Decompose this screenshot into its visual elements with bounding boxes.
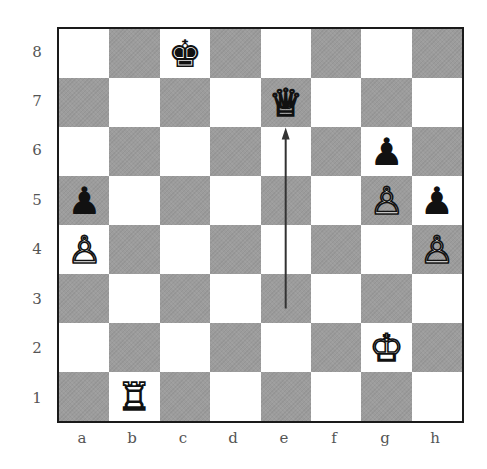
square-c6 <box>160 127 210 176</box>
square-d4 <box>210 225 260 274</box>
black-pawn-icon: ♟ <box>67 182 101 220</box>
square-g1 <box>361 372 411 421</box>
square-e6 <box>261 127 311 176</box>
black-pawn-icon: ♟ <box>369 133 403 171</box>
black-king-icon: ♚ <box>168 35 202 73</box>
square-a8 <box>59 29 109 78</box>
black-pawn-icon: ♟ <box>420 182 454 220</box>
square-a6 <box>59 127 109 176</box>
square-d3 <box>210 274 260 323</box>
file-label-f: f <box>309 429 359 447</box>
square-e5 <box>261 176 311 225</box>
square-g2: ♔ <box>361 323 411 372</box>
white-pawn-icon: ♙ <box>67 231 101 269</box>
square-c1 <box>160 372 210 421</box>
square-b5 <box>109 176 159 225</box>
white-rook-icon: ♖ <box>118 378 152 416</box>
square-g7 <box>361 78 411 127</box>
square-h5: ♟ <box>412 176 462 225</box>
white-pawn-icon: ♙ <box>369 182 403 220</box>
rank-label-5: 5 <box>30 191 44 209</box>
square-d8 <box>210 29 260 78</box>
square-h4: ♙ <box>412 225 462 274</box>
white-king-icon: ♔ <box>369 329 403 367</box>
rank-label-4: 4 <box>30 240 44 258</box>
rank-label-3: 3 <box>30 290 44 308</box>
square-h3 <box>412 274 462 323</box>
rank-label-8: 8 <box>30 43 44 61</box>
square-h7 <box>412 78 462 127</box>
square-e2 <box>261 323 311 372</box>
square-g5: ♙ <box>361 176 411 225</box>
square-e4 <box>261 225 311 274</box>
rank-label-6: 6 <box>30 141 44 159</box>
rank-label-2: 2 <box>30 339 44 357</box>
square-b6 <box>109 127 159 176</box>
file-label-b: b <box>107 429 157 447</box>
file-label-h: h <box>410 429 460 447</box>
chess-board: ♚♕♟♟♙♟♙♙♔♖ <box>57 27 464 423</box>
square-d1 <box>210 372 260 421</box>
square-e3 <box>261 274 311 323</box>
file-label-a: a <box>57 429 107 447</box>
white-pawn-icon: ♙ <box>420 231 454 269</box>
square-c5 <box>160 176 210 225</box>
square-a4: ♙ <box>59 225 109 274</box>
square-b8 <box>109 29 159 78</box>
file-label-d: d <box>208 429 258 447</box>
rank-label-7: 7 <box>30 92 44 110</box>
square-g4 <box>361 225 411 274</box>
square-f7 <box>311 78 361 127</box>
rank-label-1: 1 <box>30 389 44 407</box>
square-e1 <box>261 372 311 421</box>
square-a3 <box>59 274 109 323</box>
square-c4 <box>160 225 210 274</box>
board-grid: ♚♕♟♟♙♟♙♙♔♖ <box>59 29 462 421</box>
square-c3 <box>160 274 210 323</box>
file-label-e: e <box>259 429 309 447</box>
file-label-g: g <box>360 429 410 447</box>
white-queen-icon: ♕ <box>269 84 303 122</box>
square-d2 <box>210 323 260 372</box>
file-label-c: c <box>158 429 208 447</box>
square-b2 <box>109 323 159 372</box>
square-g6: ♟ <box>361 127 411 176</box>
square-a7 <box>59 78 109 127</box>
square-f2 <box>311 323 361 372</box>
square-d5 <box>210 176 260 225</box>
square-b4 <box>109 225 159 274</box>
square-c7 <box>160 78 210 127</box>
square-a1 <box>59 372 109 421</box>
square-g3 <box>361 274 411 323</box>
square-a2 <box>59 323 109 372</box>
square-h6 <box>412 127 462 176</box>
square-f6 <box>311 127 361 176</box>
square-f3 <box>311 274 361 323</box>
square-a5: ♟ <box>59 176 109 225</box>
square-h2 <box>412 323 462 372</box>
square-e7: ♕ <box>261 78 311 127</box>
square-f5 <box>311 176 361 225</box>
square-d6 <box>210 127 260 176</box>
square-f1 <box>311 372 361 421</box>
square-h8 <box>412 29 462 78</box>
square-g8 <box>361 29 411 78</box>
square-f8 <box>311 29 361 78</box>
square-b7 <box>109 78 159 127</box>
square-c8: ♚ <box>160 29 210 78</box>
square-e8 <box>261 29 311 78</box>
square-b1: ♖ <box>109 372 159 421</box>
square-f4 <box>311 225 361 274</box>
square-c2 <box>160 323 210 372</box>
square-b3 <box>109 274 159 323</box>
square-d7 <box>210 78 260 127</box>
square-h1 <box>412 372 462 421</box>
